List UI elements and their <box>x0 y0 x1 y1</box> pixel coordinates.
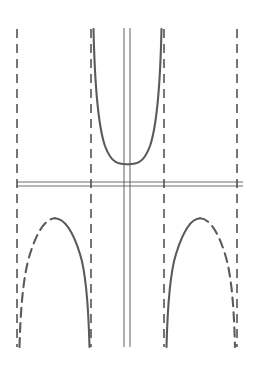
figure-root <box>0 0 259 375</box>
function-graph-plot <box>0 0 259 375</box>
